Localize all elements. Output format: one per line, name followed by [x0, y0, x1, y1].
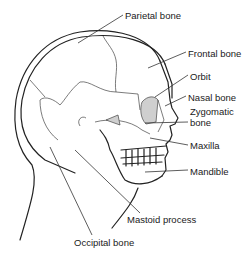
label-occipital-bone: Occipital bone: [74, 237, 134, 248]
label-nasal-bone: Nasal bone: [188, 92, 236, 103]
label-mandible: Mandible: [190, 166, 229, 177]
label-zygomatic-line1: Zygomatic: [190, 106, 234, 117]
skull-diagram: [0, 0, 243, 256]
label-mastoid-process: Mastoid process: [127, 214, 196, 225]
head-outline: [15, 31, 160, 240]
label-zygomatic-line2: bone: [190, 117, 211, 128]
face-profile: [160, 61, 178, 176]
label-frontal-bone: Frontal bone: [188, 48, 241, 59]
label-maxilla: Maxilla: [190, 140, 220, 151]
label-orbit: Orbit: [190, 71, 211, 82]
label-parietal-bone: Parietal bone: [125, 10, 181, 21]
